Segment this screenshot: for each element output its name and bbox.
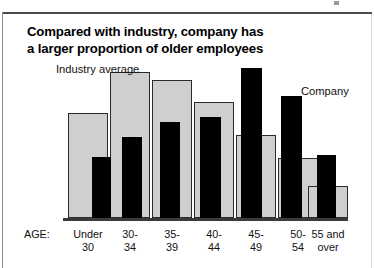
bar-company bbox=[160, 122, 180, 218]
bar-group bbox=[194, 68, 234, 218]
bar-company bbox=[122, 137, 142, 218]
bar-company bbox=[281, 96, 302, 218]
bar-group bbox=[68, 68, 108, 218]
x-axis-tick-label: 55 andover bbox=[300, 228, 356, 254]
bar-group bbox=[110, 68, 150, 218]
bar-group bbox=[152, 68, 192, 218]
x-axis-title: AGE: bbox=[24, 228, 50, 240]
bar-company bbox=[241, 68, 262, 218]
bar-company bbox=[200, 117, 221, 218]
series-label-industry-line-2: average bbox=[99, 63, 139, 75]
x-axis-baseline bbox=[63, 218, 348, 221]
bar-company bbox=[92, 157, 111, 218]
series-label-company: Company bbox=[301, 85, 349, 99]
series-label-industry-average: Industry average bbox=[56, 63, 139, 77]
x-axis-tick-line-1: 55 and bbox=[300, 228, 356, 241]
bar-company bbox=[317, 155, 336, 218]
x-axis-tick-line-2: over bbox=[300, 241, 356, 254]
chart-figure: Compared with industry, company has a la… bbox=[0, 0, 374, 268]
bar-group bbox=[236, 68, 276, 218]
series-label-industry-line-1: Industry bbox=[56, 63, 96, 75]
